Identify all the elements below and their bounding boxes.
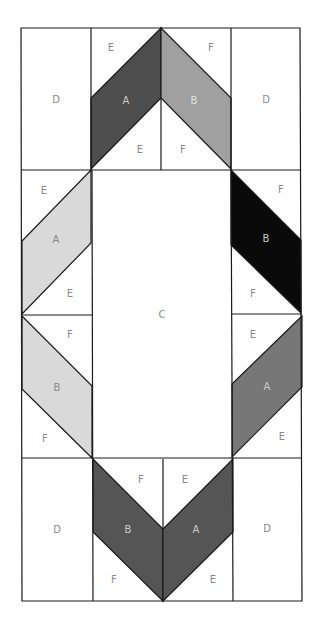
- label-bottom-e-outer: E: [210, 574, 216, 585]
- label-left-lower-f-top: F: [67, 329, 73, 340]
- label-d-bottom-right: D: [263, 523, 271, 534]
- label-left-upper-e-bottom: E: [67, 288, 73, 299]
- label-right-upper-f-bottom: F: [250, 288, 256, 299]
- label-bottom-e-inner: E: [182, 474, 188, 485]
- label-top-e-inner: E: [137, 144, 143, 155]
- label-bottom-a: A: [193, 524, 200, 535]
- label-right-lower-e-top: E: [250, 329, 256, 340]
- label-top-b: B: [191, 95, 198, 106]
- vline-left-mid: [92, 170, 93, 601]
- label-c-center: C: [159, 309, 166, 320]
- label-left-upper-a: A: [53, 234, 60, 245]
- label-right-lower-e-bottom: E: [279, 431, 285, 442]
- label-right-lower-a: A: [264, 381, 271, 392]
- label-left-lower-f-bottom: F: [42, 433, 48, 444]
- label-d-top-right: D: [262, 94, 270, 105]
- label-bottom-b: B: [125, 524, 132, 535]
- label-bottom-f-inner: F: [138, 474, 144, 485]
- label-top-f-inner: F: [180, 144, 186, 155]
- label-left-lower-b: B: [54, 382, 61, 393]
- label-top-f-outer: F: [208, 42, 214, 53]
- label-d-bottom-left: D: [53, 524, 61, 535]
- label-top-e-outer: E: [108, 42, 114, 53]
- label-left-upper-e-top: E: [41, 185, 47, 196]
- label-right-upper-b: B: [263, 233, 270, 244]
- label-top-a: A: [123, 95, 130, 106]
- label-right-upper-f-top: F: [278, 184, 284, 195]
- quilt-diagram: D D D D C E F A B E F E A E F B F F B F …: [0, 0, 321, 624]
- label-d-top-left: D: [52, 94, 60, 105]
- label-bottom-f-outer: F: [111, 574, 117, 585]
